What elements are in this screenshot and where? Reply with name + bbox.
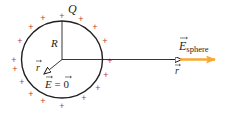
outside-field-subscript: sphere [186,44,208,54]
electric-field-of-charged-sphere-diagram: +++++++++++++++++ Q R r E = 0 [0,0,227,115]
radius-label-r: R [50,37,58,49]
plus-charge-icon: + [17,36,22,46]
plus-charge-icon: + [95,83,100,93]
plus-charge-icon: + [81,93,86,103]
plus-charge-icon: + [103,70,108,80]
inside-field-equals: = [52,78,64,90]
outer-r-text: r [175,65,179,76]
inner-r-text: r [36,62,40,73]
plus-charge-icon: + [11,55,16,65]
plus-charge-icon: + [40,13,45,23]
plus-charge-icon: + [12,64,17,74]
plus-charge-icon: + [78,14,83,24]
inner-position-vector-arrow [44,60,62,75]
plus-charge-icon: + [19,77,24,87]
plus-charge-icon: + [28,22,33,32]
plus-charge-icon: + [59,11,64,21]
diagram-canvas: +++++++++++++++++ Q R r E = 0 [0,0,227,115]
plus-charge-icon: + [92,22,97,32]
charge-label-q: Q [68,2,77,16]
outside-field-label: Esphere [178,37,209,54]
inside-field-label: E = 0 [44,76,72,90]
svg-text:E = 0: E = 0 [44,78,69,90]
inside-field-zero: 0 [63,78,69,90]
plus-charge-icon: + [107,56,112,66]
inner-r-label: r [36,60,42,73]
outer-r-label: r [175,64,181,76]
svg-text:Esphere: Esphere [178,39,209,54]
plus-charge-icon: + [40,96,45,106]
plus-charge-icon: + [59,101,64,111]
plus-charge-icon: + [28,89,33,99]
plus-charge-icon: + [102,36,107,46]
